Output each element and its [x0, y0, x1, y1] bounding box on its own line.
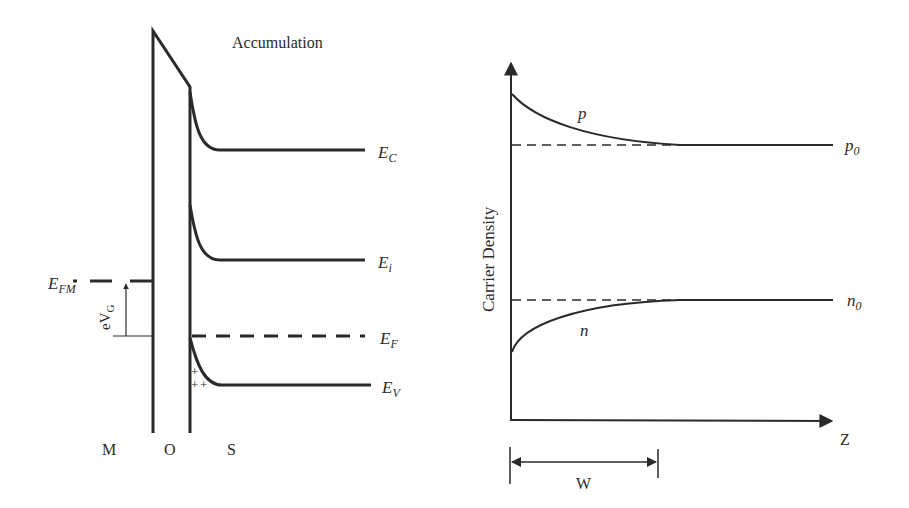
x-axis — [510, 420, 832, 421]
intrinsic-level — [190, 205, 365, 260]
oxide-barrier — [153, 31, 190, 433]
ec-label: EC — [377, 143, 397, 165]
y-axis-label: Carrier Density — [479, 206, 498, 312]
region-label-oxide: O — [164, 441, 176, 458]
ei-label: Ei — [377, 253, 392, 275]
x-axis-label: Z — [840, 431, 850, 448]
ef-label: EF — [379, 329, 398, 351]
plus-icon: + — [200, 377, 207, 392]
conduction-band — [190, 92, 365, 150]
valence-band — [190, 338, 371, 385]
n-curve-label: n — [580, 321, 589, 340]
gate-voltage-marker: eVG — [97, 284, 153, 336]
n-curve — [512, 300, 833, 352]
w-label: W — [576, 475, 592, 492]
carrier-density-chart: Carrier Density Z p n p0 n0 W — [479, 63, 862, 492]
n0-label: n0 — [847, 291, 862, 313]
efm-label: EFM — [47, 274, 77, 296]
p-curve — [512, 94, 833, 145]
width-marker: W — [510, 447, 658, 492]
plus-icon: + — [191, 377, 198, 392]
figure-canvas: Accumulation EFM eVG + + — [0, 0, 909, 508]
region-label-semiconductor: S — [227, 441, 236, 458]
p0-label: p0 — [844, 136, 860, 158]
diagram-title: Accumulation — [232, 34, 323, 51]
region-label-metal: M — [102, 441, 116, 458]
metal-fermi-level: EFM — [47, 274, 153, 296]
oxide-outline — [153, 31, 190, 433]
evg-label: eVG — [97, 305, 116, 331]
ev-label: EV — [381, 378, 401, 400]
mos-band-diagram: Accumulation EFM eVG + + — [47, 31, 401, 458]
p-curve-label: p — [577, 104, 587, 123]
